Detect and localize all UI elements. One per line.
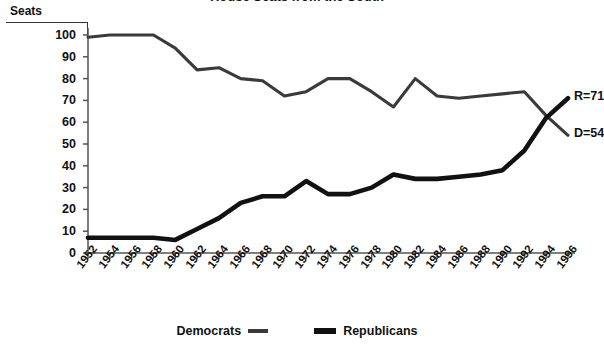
republicans-line (88, 98, 568, 240)
y-tick-label: 50 (44, 137, 76, 151)
republican-end-label: R=71 (574, 89, 604, 103)
democrat-end-label: D=54 (574, 126, 604, 140)
y-tick-label: 10 (44, 224, 76, 238)
legend-item-democrats: Democrats (177, 324, 269, 338)
legend-label-democrats: Democrats (177, 324, 242, 338)
legend-label-republicans: Republicans (343, 324, 417, 338)
y-tick-label: 60 (44, 115, 76, 129)
y-tick-label: 70 (44, 93, 76, 107)
y-tick-label: 20 (44, 202, 76, 216)
y-tick-label: 90 (44, 50, 76, 64)
y-tick-label: 80 (44, 72, 76, 86)
legend-item-republicans: Republicans (314, 324, 417, 338)
axis-lines (88, 28, 575, 253)
y-tick-label: 0 (44, 246, 76, 260)
y-tick-label: 100 (44, 28, 76, 42)
democrats-line (88, 35, 568, 135)
democrats-line-swatch-icon (248, 329, 268, 332)
y-tick-label: 40 (44, 159, 76, 173)
chart-legend: Democrats Republicans (0, 324, 594, 338)
y-tick-label: 30 (44, 181, 76, 195)
republicans-line-swatch-icon (314, 328, 336, 333)
